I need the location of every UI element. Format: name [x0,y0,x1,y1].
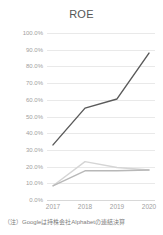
y-axis-tick-label: 30.0% [0,147,43,153]
x-axis-tick-label: 2017 [40,204,66,211]
chart-series-layer [47,33,155,200]
series-line-series-1 [53,53,149,145]
x-axis-line [47,200,155,201]
chart-title: ROE [0,8,163,20]
y-axis-tick-label: 70.0% [0,80,43,86]
y-axis-tick-label: 90.0% [0,47,43,53]
y-axis-tick-label: 0.0% [0,197,43,203]
series-line-series-2 [53,162,149,186]
y-axis-tick-label: 80.0% [0,63,43,69]
y-axis-tick-label: 40.0% [0,130,43,136]
y-axis-tick-label: 60.0% [0,97,43,103]
x-axis-tick-label: 2020 [136,204,162,211]
series-line-series-3 [53,170,149,186]
y-axis-tick-label: 20.0% [0,164,43,170]
chart-footnote: （注）Googleは持株会社Alphabetの連結決算 [4,219,162,226]
x-axis-tick-label: 2018 [72,204,98,211]
roe-chart-figure: ROE 100.0%90.0%80.0%70.0%60.0%50.0%40.0%… [0,0,163,235]
y-axis-tick-label: 10.0% [0,180,43,186]
x-axis-tick-label: 2019 [104,204,130,211]
y-axis-tick-label: 100.0% [0,30,43,36]
y-axis-tick-label: 50.0% [0,114,43,120]
